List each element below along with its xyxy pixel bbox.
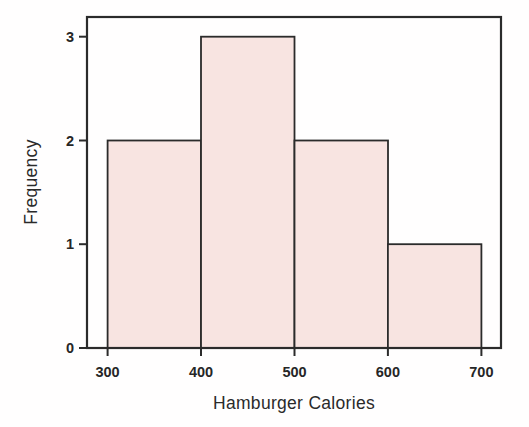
x-tick-label: 600 — [376, 364, 400, 380]
y-tick-label: 3 — [66, 29, 74, 45]
x-tick-label: 700 — [469, 364, 493, 380]
y-axis-title: Frequency — [21, 139, 42, 224]
histogram-bar — [295, 141, 389, 349]
x-axis-title: Hamburger Calories — [87, 393, 501, 414]
y-tick-label: 0 — [66, 340, 74, 356]
histogram-bar — [388, 244, 482, 348]
y-tick-label: 2 — [66, 133, 74, 149]
x-tick-label: 400 — [189, 364, 213, 380]
histogram-figure: 0123300400500600700 Frequency Hamburger … — [0, 0, 529, 427]
histogram-bar — [201, 37, 295, 348]
y-tick-label: 1 — [66, 236, 74, 252]
histogram-plot: 0123300400500600700 — [0, 0, 529, 427]
x-tick-label: 500 — [282, 364, 306, 380]
x-tick-label: 300 — [95, 364, 119, 380]
histogram-bar — [108, 141, 202, 349]
